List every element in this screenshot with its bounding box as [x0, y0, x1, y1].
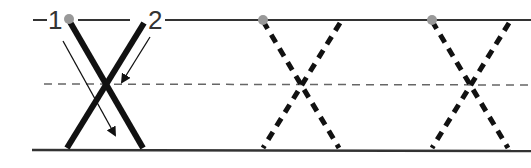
solid-x-example	[63, 14, 150, 148]
start-dot-icon	[258, 15, 268, 25]
start-dot-icon	[64, 14, 74, 24]
dashed-x-example-1	[258, 15, 340, 148]
start-dot-icon	[427, 15, 437, 25]
practice-lines	[0, 0, 531, 168]
baseline	[32, 150, 531, 151]
arrow-stroke-2-icon	[122, 37, 150, 82]
midline-dashed	[44, 84, 531, 85]
dashed-x-example-2	[427, 15, 509, 148]
stroke-label-2: 2	[148, 7, 162, 33]
stroke-label-1: 1	[48, 7, 62, 33]
letter-x-stroke-diagram: 1 2	[0, 0, 531, 168]
